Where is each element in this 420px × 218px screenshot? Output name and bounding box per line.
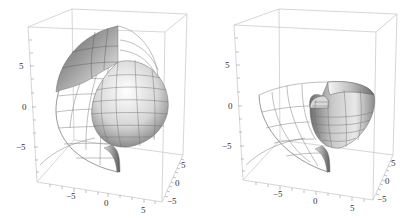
depth-tick-0: 0: [385, 176, 390, 186]
vertical-tick-neg5: −5: [16, 142, 26, 152]
vertical-tick-5: 5: [19, 61, 24, 71]
bottom-tick-5: 5: [141, 205, 146, 215]
vertical-tick-5: 5: [225, 60, 230, 70]
depth-tick-neg5: −5: [377, 194, 387, 204]
bottom-tick-0: 0: [313, 196, 318, 206]
vertical-axis-ticks: [235, 38, 245, 171]
surface-plot-right: 5 0 −5 −5 0 5 5 0 −5: [210, 0, 420, 218]
bottom-tick-neg5: −5: [66, 191, 76, 201]
vertical-tick-neg5: −5: [222, 141, 232, 151]
bottom-tick-0: 0: [104, 198, 109, 208]
depth-tick-neg5: −5: [167, 196, 177, 206]
vertical-tick-0: 0: [22, 102, 27, 112]
depth-tick-5: 5: [391, 158, 396, 168]
bottom-tick-5: 5: [350, 203, 355, 213]
lower-neck-surface: [104, 145, 120, 172]
vertical-axis-ticks: [29, 40, 39, 172]
vertical-tick-0: 0: [228, 101, 233, 111]
depth-tick-5: 5: [181, 160, 186, 170]
depth-tick-0: 0: [175, 178, 180, 188]
surface-plot-left: 5 0 −5 −5 0 5 5 0 −5: [0, 0, 210, 218]
plot-panel-right: 5 0 −5 −5 0 5 5 0 −5: [210, 0, 420, 218]
sphere-lobe-surface: [92, 61, 169, 147]
plot-panel-left: 5 0 −5 −5 0 5 5 0 −5: [0, 0, 210, 218]
bottom-tick-neg5: −5: [273, 189, 283, 199]
